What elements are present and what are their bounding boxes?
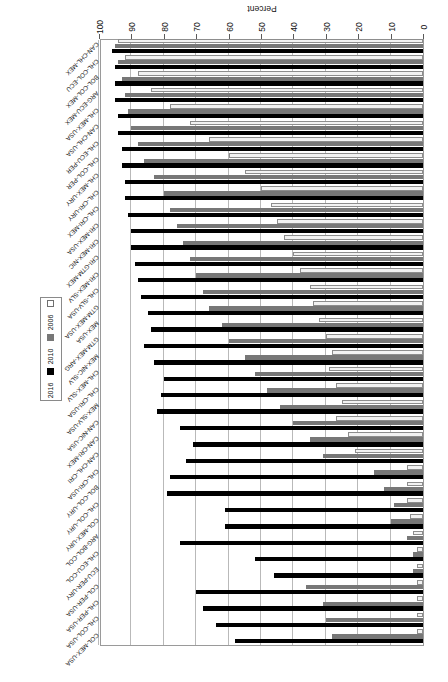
bar-group <box>101 497 423 513</box>
bar-2010-CAN-CHL-MEX <box>115 44 423 48</box>
bar-2006-ECU-PER-URY <box>417 564 423 569</box>
bar-group <box>101 104 423 120</box>
bar-2010-CHL-SLV-USA <box>203 290 423 294</box>
bar-group <box>101 301 423 317</box>
bar-group <box>101 186 423 202</box>
tick-label-10: 10 <box>387 12 397 42</box>
bar-2010-CHL-ECU-COL <box>413 552 423 556</box>
bar-2016-CHL-CRI-MEX <box>128 213 423 217</box>
bar-group <box>101 612 423 628</box>
bar-2010-CRI-GTM-MEX <box>190 257 423 261</box>
bar-2006-BOL-COL-URY <box>407 482 423 487</box>
bar-2010-ARG-ECU-MEX <box>125 93 423 97</box>
bar-2010-CHL-CRI-MEX <box>170 208 423 212</box>
bar-2016-CRI-GTM-MEX <box>135 262 423 266</box>
bar-2016-CHL-SLV-USA <box>141 295 423 299</box>
bar-2010-CHL-PER-USA <box>323 602 423 606</box>
bar-group <box>101 579 423 595</box>
legend-label-2016: 2016 <box>47 375 54 407</box>
bar-2016-CHL-CRI-URY <box>125 196 423 200</box>
tick-label-60: 60 <box>225 12 235 42</box>
bar-2016-CHL-COL-USA <box>216 623 423 627</box>
bar-2016-COL-MEX-USA <box>235 639 423 643</box>
bar-2010-CHL-COL-USA <box>326 618 423 622</box>
bar-2006-GTM-MEX-USA <box>313 301 423 306</box>
bar-2016-CHL-COL-ECU <box>115 65 423 69</box>
bar-2006-ARG-BOL-COL <box>413 531 423 536</box>
bar-group <box>101 153 423 169</box>
tick-label-90: 90 <box>127 12 137 42</box>
bar-2016-BOL-COL-URY <box>167 491 423 495</box>
bar-2010-CHL-CRI-USA <box>267 388 423 392</box>
bar-2016-CHL-COL-PER <box>122 163 423 167</box>
bar-chart-figure: 0102030405060708090100 Percent COL-MEX-U… <box>0 0 448 682</box>
bar-2006-CRI-MEX-USA <box>277 219 423 224</box>
chart-figure-rotated: 0102030405060708090100 Percent COL-MEX-U… <box>0 0 448 682</box>
bar-group <box>101 71 423 87</box>
bar-2006-COL-PER-USA <box>417 580 423 585</box>
bar-2010-MEX-USA <box>222 323 423 327</box>
bar-2010-CHL-ECU-PER <box>138 142 423 146</box>
bar-2016-CHL-CRI-USA <box>170 475 423 479</box>
bar-group <box>101 235 423 251</box>
bar-2016-CRI-MEX-SLV <box>138 278 423 282</box>
bar-2010-CHL-MEX-URY <box>154 175 423 179</box>
bar-group <box>101 54 423 70</box>
bar-2006-ARG-ECU-MEX <box>151 88 423 93</box>
bar-2010-MEX-NIC-SLV <box>245 355 423 359</box>
bar-group <box>101 399 423 415</box>
bar-2016-GTM-MEX-USA <box>148 311 423 315</box>
bar-2010-CAN-CRI-MEX <box>310 437 423 441</box>
tick-label-0: 0 <box>419 12 429 42</box>
bar-2016-CHL-MEX-SLV <box>164 377 423 381</box>
bar-2016-GTM-MEX-ARG <box>144 344 423 348</box>
bar-2006-CHL-MEX-URY <box>245 170 423 175</box>
bar-2006-MEX-USA <box>319 318 423 323</box>
bar-2006-GTM-MEX-ARG <box>326 334 423 339</box>
bar-group <box>101 383 423 399</box>
bar-2016-CHL-MEX-URY <box>125 180 423 184</box>
bar-2006-MEX-NIC-SLV <box>332 350 423 355</box>
legend-item-2006: 2006 <box>39 296 61 330</box>
bar-2006-BOL-COL-MEX <box>138 71 423 76</box>
bar-2006-CRI-MEX-SLV <box>300 268 423 273</box>
bar-group <box>101 629 423 645</box>
bar-2010-CHL-COL-URY <box>394 503 423 507</box>
bar-2016-MEX-USA <box>151 327 423 331</box>
bar-2010-CAN-CHL-CRI <box>323 454 423 458</box>
bar-group <box>101 218 423 234</box>
bar-2010-MEX-SLV-USA <box>280 405 423 409</box>
bar-group <box>101 202 423 218</box>
bar-group <box>101 465 423 481</box>
bar-2010-GTM-MEX-ARG <box>229 339 423 343</box>
bar-group <box>101 415 423 431</box>
bar-group <box>101 136 423 152</box>
tick-label-20: 20 <box>354 12 364 42</box>
tick-label-80: 80 <box>160 12 170 42</box>
bar-2016-MEX-SLV-USA <box>157 409 423 413</box>
bar-2010-CRI-MEX-NIC <box>183 241 423 245</box>
bar-2006-CAN-CHL-CRI <box>355 449 423 454</box>
bar-2016-CHL-ECU-COL <box>255 557 423 561</box>
bar-2006-CHL-COL-URY <box>407 498 423 503</box>
bar-group <box>101 514 423 530</box>
bar-group <box>101 333 423 349</box>
bar-2010-COL-MEX-USA <box>332 634 423 638</box>
bar-2010-CHL-CRI-URY <box>164 191 423 195</box>
bar-group <box>101 448 423 464</box>
bar-2006-CHL-ECU-PER <box>209 137 423 142</box>
bar-2010-CRI-MEX-SLV <box>196 273 423 277</box>
bar-2010-BOL-COL-URY <box>384 487 423 491</box>
bar-2006-CHL-MEX-SLV <box>329 367 423 372</box>
bar-2010-CHL-COL-PER <box>144 159 423 163</box>
bar-2016-CAN-NIC-USA <box>180 426 423 430</box>
bar-group <box>101 432 423 448</box>
bar-group <box>101 251 423 267</box>
bar-2010-GTM-MEX-USA <box>209 306 423 310</box>
bar-2010-CHL-COL-ECU <box>118 60 423 64</box>
bar-2016-CHL-COL-URY <box>225 508 423 512</box>
bar-2006-COL-MEX-URY <box>410 514 423 519</box>
bar-2010-CHL-MEX-USA <box>128 109 423 113</box>
bar-2016-COL-PER-USA <box>196 590 423 594</box>
bar-2016-CHL-PER-USA <box>203 606 423 610</box>
